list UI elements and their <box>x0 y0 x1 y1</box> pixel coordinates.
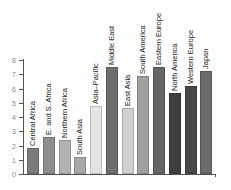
bar <box>169 93 181 174</box>
y-tick-label: 6 <box>2 86 16 93</box>
y-tick <box>19 117 23 118</box>
y-tick <box>19 60 23 61</box>
bar <box>153 67 165 174</box>
y-tick-label: 0 <box>2 171 16 178</box>
y-tick <box>19 146 23 147</box>
y-tick <box>19 89 23 90</box>
bar-label: Asia–Pacific <box>92 63 100 104</box>
bar-label: Japan <box>202 49 210 69</box>
bar <box>74 157 86 174</box>
y-tick-label: 7 <box>2 71 16 78</box>
bar-chart: 012345678 Central AfricaE. and S. Africa… <box>0 0 231 190</box>
bar-label: Western Europe <box>187 30 195 84</box>
bar <box>200 71 212 174</box>
bar <box>122 108 134 174</box>
bar <box>43 137 55 174</box>
y-axis <box>23 59 24 174</box>
y-tick <box>19 74 23 75</box>
y-tick-label: 3 <box>2 128 16 135</box>
y-tick-label: 5 <box>2 100 16 107</box>
bar-label: South America <box>139 25 147 74</box>
bar-label: Middle East <box>108 26 116 65</box>
y-tick <box>19 160 23 161</box>
bar-label: Central Africa <box>29 101 37 146</box>
bar <box>137 76 149 174</box>
y-tick <box>19 174 23 175</box>
x-axis-end-tick <box>215 174 216 177</box>
bar <box>59 140 71 174</box>
x-axis <box>23 174 216 175</box>
y-tick-label: 8 <box>2 57 16 64</box>
bar-label: Eastern Europe <box>155 13 163 65</box>
bar <box>106 67 118 174</box>
y-tick <box>19 103 23 104</box>
y-tick-label: 4 <box>2 114 16 121</box>
bar <box>90 106 102 174</box>
y-tick-label: 1 <box>2 157 16 164</box>
bar-label: South Asia <box>76 119 84 155</box>
bar-label: East Asia <box>124 75 132 106</box>
bar-label: North America <box>171 43 179 91</box>
bar-label: E. and S. Africa <box>45 83 53 135</box>
y-tick-label: 2 <box>2 143 16 150</box>
bar <box>185 86 197 174</box>
bar-label: Northern Africa <box>61 88 69 138</box>
bar <box>27 148 39 174</box>
y-tick <box>19 131 23 132</box>
